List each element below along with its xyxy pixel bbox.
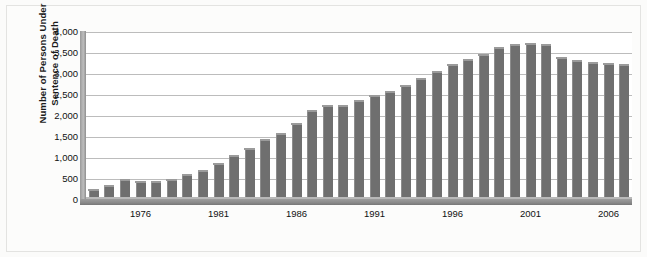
y-axis-tick-label: 1,500: [32, 132, 78, 142]
y-axis-tick-label: 2,000: [32, 111, 78, 121]
y-axis-tick-label: 2,500: [32, 90, 78, 100]
bar-top-cap: [478, 54, 488, 56]
bar: [604, 64, 614, 200]
bar-top-cap: [432, 71, 442, 73]
plot-area: [86, 32, 632, 200]
x-axis-tick-label: 1996: [433, 208, 473, 219]
bar-top-cap: [276, 133, 286, 135]
bar: [448, 65, 458, 200]
bar-top-cap: [525, 43, 535, 45]
y-axis-tick-label: 3,000: [32, 69, 78, 79]
bar-top-cap: [166, 179, 176, 181]
x-axis-tick-label: 1981: [199, 208, 239, 219]
bar-top-cap: [447, 64, 457, 66]
bar: [214, 164, 224, 200]
bar-top-cap: [541, 44, 551, 46]
bar-top-cap: [338, 105, 348, 107]
bar-top-cap: [385, 91, 395, 93]
bar-series: [86, 32, 632, 200]
x-axis-floor: [80, 199, 632, 205]
bar-top-cap: [104, 185, 114, 187]
bar-top-cap: [182, 174, 192, 176]
bar: [198, 171, 208, 200]
bar-top-cap: [400, 85, 410, 87]
bar: [401, 86, 411, 200]
bar: [572, 61, 582, 200]
bar-top-cap: [556, 57, 566, 59]
chart-figure: Number of Persons Under Sentence of Deat…: [0, 0, 647, 257]
bar: [619, 65, 629, 200]
bar: [354, 101, 364, 200]
bar: [588, 63, 598, 200]
bar-top-cap: [307, 110, 317, 112]
bar: [494, 48, 504, 200]
bar-top-cap: [369, 95, 379, 97]
bar: [276, 134, 286, 200]
y-axis-tick-label: 4,000: [32, 27, 78, 37]
x-axis-tick-label: 1991: [355, 208, 395, 219]
x-axis-tick-label: 1976: [121, 208, 161, 219]
bar: [338, 106, 348, 201]
bar-top-cap: [229, 155, 239, 157]
bar-top-cap: [463, 59, 473, 61]
x-axis-tick-label: 2001: [511, 208, 551, 219]
bar-top-cap: [588, 62, 598, 64]
bar: [526, 44, 536, 200]
y-axis-tick-label: 500: [32, 174, 78, 184]
bar: [479, 55, 489, 200]
bar-top-cap: [322, 105, 332, 107]
bar: [229, 156, 239, 200]
bar: [323, 106, 333, 200]
bar-top-cap: [213, 163, 223, 165]
bar: [432, 72, 442, 200]
x-axis-tick-label: 1986: [277, 208, 317, 219]
x-axis-tick-label: 2006: [589, 208, 629, 219]
bar: [307, 111, 317, 200]
bar-top-cap: [494, 47, 504, 49]
bar-top-cap: [603, 63, 613, 65]
bar-top-cap: [354, 100, 364, 102]
bar-top-cap: [135, 181, 145, 183]
bar: [557, 58, 567, 200]
bar: [510, 45, 520, 200]
bar: [385, 92, 395, 200]
bar-top-cap: [151, 181, 161, 183]
bar: [292, 124, 302, 200]
y-axis-tick-label: 1,000: [32, 153, 78, 163]
bar-top-cap: [416, 78, 426, 80]
bar-top-cap: [619, 64, 629, 66]
bar: [463, 60, 473, 200]
bar: [541, 45, 551, 200]
bar: [416, 79, 426, 200]
bar-top-cap: [198, 170, 208, 172]
y-axis-tick-label: 0: [32, 195, 78, 205]
y-axis-tick-label: 3,500: [32, 48, 78, 58]
bar: [260, 140, 270, 200]
bar: [245, 149, 255, 200]
bar-top-cap: [120, 179, 130, 181]
bar-top-cap: [510, 44, 520, 46]
bar: [370, 96, 380, 200]
bar-top-cap: [291, 123, 301, 125]
bar-top-cap: [88, 189, 98, 191]
bar-top-cap: [244, 148, 254, 150]
bar-top-cap: [260, 139, 270, 141]
bar-top-cap: [572, 60, 582, 62]
